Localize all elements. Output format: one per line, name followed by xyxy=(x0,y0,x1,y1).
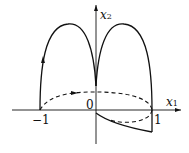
solid-right-arch xyxy=(96,24,152,110)
x-axis-label-sub: 1 xyxy=(173,99,178,108)
x-axis-label-main: x xyxy=(166,95,173,109)
x-axis-label: x1 xyxy=(166,96,178,108)
solid-lower-return xyxy=(96,113,152,132)
dashed-direction-arrow-icon xyxy=(71,91,78,95)
y-axis-arrow-icon xyxy=(94,5,98,11)
y-axis-label: x2 xyxy=(100,9,112,21)
dashed-lower-arc xyxy=(110,110,152,122)
tick-neg-one: −1 xyxy=(32,114,50,126)
diagram-canvas xyxy=(0,0,189,153)
tick-pos-one: 1 xyxy=(154,114,162,126)
x-axis-arrow-icon xyxy=(175,108,181,112)
phase-portrait-diagram: x2 x1 0 −1 1 xyxy=(0,0,189,153)
y-axis-label-main: x xyxy=(100,8,107,22)
origin-label: 0 xyxy=(86,99,94,111)
y-axis-label-sub: 2 xyxy=(107,12,112,21)
